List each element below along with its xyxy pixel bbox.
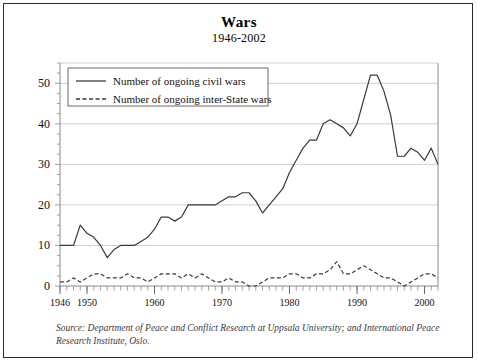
figure-frame: Wars 1946-2002 01020304050 1946195019601… <box>3 3 473 358</box>
y-tick-label-30: 30 <box>38 157 50 171</box>
x-tick-label-1990: 1990 <box>347 297 367 308</box>
x-tick-label-1970: 1970 <box>212 297 232 308</box>
y-tick-label-0: 0 <box>44 279 50 293</box>
y-tick-label-20: 20 <box>38 198 50 212</box>
source-note: Source: Department of Peace and Conflict… <box>56 322 456 348</box>
x-minor-ticks <box>60 286 438 291</box>
x-tick-label-1980: 1980 <box>280 297 300 308</box>
y-tick-label-50: 50 <box>38 76 50 90</box>
x-tick-label-1950: 1950 <box>77 297 97 308</box>
y-tick-label-10: 10 <box>38 238 50 252</box>
line-chart-svg: 01020304050 1946195019601970198019902000… <box>4 4 474 359</box>
x-tick-labels: 1946195019601970198019902000 <box>50 297 435 308</box>
series-line-2 <box>60 262 438 286</box>
plot-area: 01020304050 1946195019601970198019902000… <box>4 4 474 359</box>
series-lines <box>60 75 438 286</box>
y-tick-labels: 01020304050 <box>38 76 50 293</box>
chart-legend: Number of ongoing civil warsNumber of on… <box>68 68 272 106</box>
legend-label-2: Number of ongoing inter-State wars <box>113 93 272 105</box>
x-tick-label-1960: 1960 <box>145 297 165 308</box>
gridlines <box>60 83 438 245</box>
x-tick-label-2000: 2000 <box>415 297 435 308</box>
y-tick-label-40: 40 <box>38 117 50 131</box>
y-minor-ticks <box>55 63 60 286</box>
legend-label-1: Number of ongoing civil wars <box>113 75 246 87</box>
x-tick-label-1946: 1946 <box>50 297 70 308</box>
